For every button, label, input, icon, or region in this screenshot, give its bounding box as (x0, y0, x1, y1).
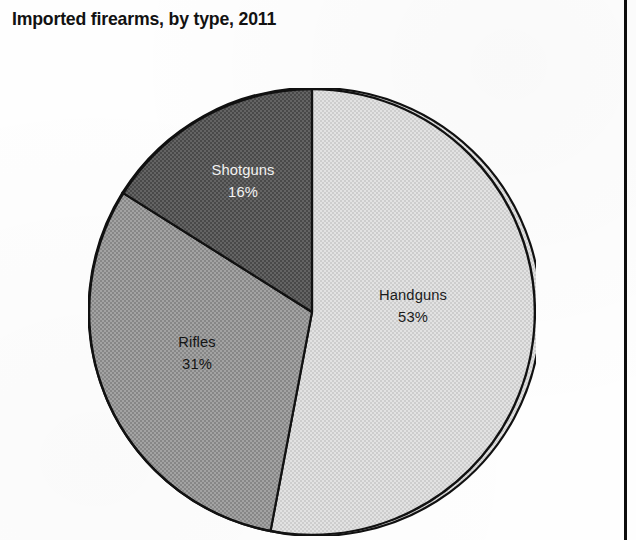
pie-chart-svg (88, 88, 536, 536)
pie-chart (88, 88, 536, 536)
page-column-rule (624, 0, 627, 540)
page-title: Imported firearms, by type, 2011 (12, 8, 276, 30)
figure-root: Imported firearms, by type, 2011 (0, 0, 636, 540)
